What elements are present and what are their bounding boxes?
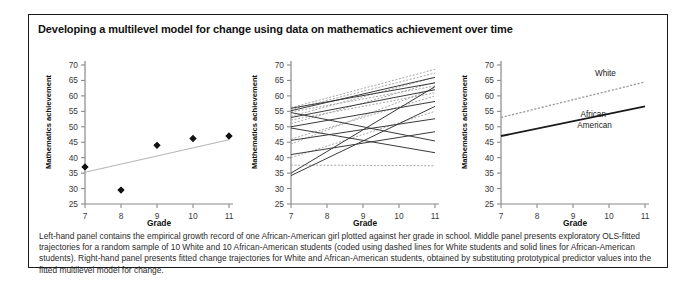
y-tick-label: 40 (485, 153, 495, 163)
y-tick-label: 50 (275, 122, 285, 132)
series-annotations: WhiteAfrican-American (577, 69, 616, 130)
y-tick-label: 65 (485, 75, 495, 85)
x-tick-label: 7 (289, 211, 294, 221)
panel-middle-yaxis: 25303540455055606570 (275, 60, 291, 209)
y-tick-label: 55 (69, 106, 79, 116)
fitted-trajectory-white (501, 82, 645, 118)
y-tick-label: 35 (275, 168, 285, 178)
y-tick-label: 60 (275, 91, 285, 101)
y-tick-group: 25303540455055606570 (69, 60, 85, 209)
x-tick-label: 10 (604, 211, 614, 221)
y-axis-label: Mathematics achievement (250, 74, 259, 169)
y-tick-group: 25303540455055606570 (485, 60, 501, 209)
y-tick-label: 45 (69, 137, 79, 147)
panel-left-svg: 25303540455055606570 7891011 Mathematics… (33, 49, 239, 229)
panel-right-svg: 25303540455055606570 7891011 Mathematics… (449, 49, 655, 229)
y-tick-label: 25 (69, 199, 79, 209)
series-annotation: American (577, 121, 612, 130)
panel-right-yaxis: 25303540455055606570 (485, 60, 501, 209)
data-points (82, 133, 232, 193)
data-point-marker (82, 164, 88, 170)
panel-middle-svg: 25303540455055606570 7891011 Mathematics… (239, 49, 445, 229)
figure-title: Developing a multilevel model for change… (38, 23, 658, 35)
data-point-marker (190, 136, 196, 142)
y-tick-label: 70 (485, 60, 495, 70)
y-tick-label: 25 (485, 199, 495, 209)
y-tick-label: 55 (275, 106, 285, 116)
panel-left-yaxis: 25303540455055606570 (69, 60, 85, 209)
trajectory-line (291, 128, 435, 153)
trajectory-line (291, 87, 435, 173)
trajectory-line (291, 82, 435, 123)
x-tick-label: 8 (119, 211, 124, 221)
data-point-marker (118, 187, 124, 193)
x-tick-label: 7 (499, 211, 504, 221)
y-axis-label: Mathematics achievement (460, 74, 469, 169)
figure-caption: Left-hand panel contains the empirical g… (39, 231, 657, 276)
series-annotation: White (595, 69, 616, 78)
panels-row: 25303540455055606570 7891011 Mathematics… (29, 49, 667, 229)
x-tick-label: 8 (535, 211, 540, 221)
y-tick-label: 40 (69, 153, 79, 163)
x-tick-label: 8 (325, 211, 330, 221)
y-tick-label: 60 (69, 91, 79, 101)
y-tick-label: 50 (485, 122, 495, 132)
x-tick-label: 10 (394, 211, 404, 221)
x-axis-label: Grade (147, 218, 172, 228)
fitted-trajectory-african-american (501, 106, 645, 136)
y-tick-label: 35 (69, 168, 79, 178)
y-tick-label: 30 (69, 184, 79, 194)
x-axis-label: Grade (353, 218, 378, 228)
x-axis-label: Grade (563, 218, 588, 228)
y-tick-label: 30 (275, 184, 285, 194)
y-tick-label: 50 (69, 122, 79, 132)
figure-container: Developing a multilevel model for change… (28, 14, 668, 268)
y-tick-label: 45 (485, 137, 495, 147)
trajectory-lines (291, 69, 435, 175)
y-tick-label: 60 (485, 91, 495, 101)
panel-right-fitted-trajectories: 25303540455055606570 7891011 Mathematics… (449, 49, 655, 229)
trajectory-line (291, 83, 435, 108)
series-annotation: African- (580, 110, 608, 119)
data-point-marker (226, 133, 232, 139)
y-tick-label: 35 (485, 168, 495, 178)
y-tick-label: 70 (69, 60, 79, 70)
y-tick-group: 25303540455055606570 (275, 60, 291, 209)
y-tick-label: 70 (275, 60, 285, 70)
y-tick-label: 65 (275, 75, 285, 85)
panel-middle-ols-trajectories: 25303540455055606570 7891011 Mathematics… (239, 49, 445, 229)
y-tick-label: 65 (69, 75, 79, 85)
y-tick-label: 55 (485, 106, 495, 116)
y-tick-label: 30 (485, 184, 495, 194)
y-axis-label: Mathematics achievement (44, 74, 53, 169)
y-tick-label: 45 (275, 137, 285, 147)
x-tick-label: 11 (431, 211, 440, 221)
x-tick-label: 11 (225, 211, 234, 221)
fitted-lines (501, 82, 645, 136)
y-tick-label: 25 (275, 199, 285, 209)
y-tick-label: 40 (275, 153, 285, 163)
x-tick-label: 10 (188, 211, 198, 221)
x-tick-label: 7 (83, 211, 88, 221)
panel-left-empirical-growth: 25303540455055606570 7891011 Mathematics… (33, 49, 239, 229)
data-point-marker (154, 142, 160, 148)
trajectory-line (291, 86, 435, 112)
x-tick-label: 11 (641, 211, 650, 221)
